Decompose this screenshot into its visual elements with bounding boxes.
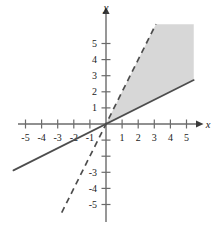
boundary-line-solid	[13, 80, 193, 170]
x-axis-tick-labels: -5 -4 -3 -2 -1 1 2 3 4 5	[21, 132, 189, 143]
x-tick-label: -4	[37, 132, 45, 143]
x-axis-label: x	[205, 119, 211, 130]
x-tick-label: 3	[152, 132, 157, 143]
y-tick-label: 5	[92, 38, 97, 49]
boundary-line-dashed	[62, 24, 156, 212]
y-axis-label: y	[103, 2, 109, 13]
x-tick-label: -5	[21, 132, 29, 143]
y-tick-label: -4	[89, 183, 97, 194]
shaded-solution-region	[106, 24, 194, 124]
x-tick-label: 4	[168, 132, 173, 143]
y-tick-label: -3	[89, 167, 97, 178]
x-tick-label: 5	[184, 132, 189, 143]
coordinate-plane-figure: -5 -4 -3 -2 -1 1 2 3 4 5 5 4 3 2 1 -3 -4…	[0, 0, 218, 229]
x-tick-label: -3	[54, 132, 62, 143]
x-axis-arrowhead	[196, 120, 204, 127]
x-tick-label: 2	[136, 132, 141, 143]
graph-canvas: -5 -4 -3 -2 -1 1 2 3 4 5 5 4 3 2 1 -3 -4…	[0, 0, 218, 229]
x-tick-label: 1	[120, 132, 125, 143]
y-tick-label: 4	[92, 54, 97, 65]
y-tick-label: 2	[92, 86, 97, 97]
y-tick-label: -5	[89, 199, 97, 210]
y-tick-label: 3	[92, 70, 97, 81]
y-tick-label: 1	[92, 102, 97, 113]
